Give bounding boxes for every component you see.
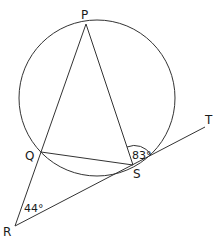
label-P: P — [81, 8, 88, 22]
line-PS — [86, 24, 133, 165]
label-T: T — [204, 113, 213, 127]
label-R: R — [3, 225, 11, 239]
line-RP — [15, 24, 86, 226]
tangent-RT — [15, 127, 205, 226]
label-Q: Q — [25, 149, 34, 163]
geometry-diagram: P Q S R T 83° 44° — [0, 0, 219, 239]
angle-label-PST: 83° — [132, 149, 152, 162]
angle-label-QRS: 44° — [24, 202, 44, 215]
label-S: S — [133, 167, 141, 181]
